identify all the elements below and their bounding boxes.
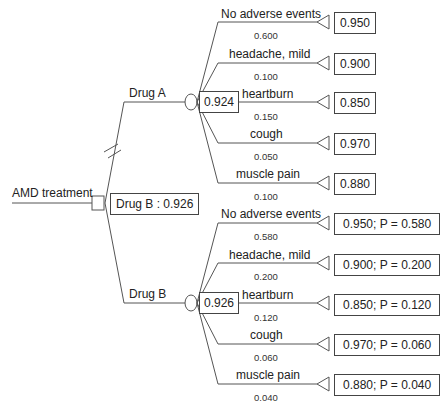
outcome-label: No adverse events [221,7,321,21]
outcome-prob: 0.060 [254,352,278,363]
outcome-prob: 0.600 [254,30,278,41]
outcome-value: 0.970 [334,133,376,155]
branch-label-drug-b: Drug B [129,287,166,301]
terminal-node-icon [317,95,329,109]
chance-node-a-icon [185,94,197,110]
decision-result-box: Drug B : 0.926 [110,193,199,215]
terminal-node-icon [317,337,329,351]
outcome-label: heartburn [242,87,293,101]
outcome-value: 0.950; P = 0.580 [334,213,440,235]
outcome-label: cough [250,328,283,342]
terminal-node-icon [317,136,329,150]
outcome-prob: 0.100 [254,71,278,82]
expected-value-drug-b: 0.926 [199,292,239,314]
outcome-label: headache, mild [229,47,310,61]
outcome-prob: 0.120 [254,312,278,323]
outcome-label: No adverse events [221,207,321,221]
outcome-prob: 0.050 [254,151,278,162]
outcome-value: 0.900 [334,53,376,75]
expected-value-drug-a: 0.924 [199,91,239,113]
outcome-value: 0.950 [334,12,376,34]
outcome-label: muscle pain [236,167,300,181]
terminal-node-icon [317,56,329,70]
outcome-label: cough [250,127,283,141]
terminal-node-icon [317,296,329,310]
outcome-value: 0.850 [334,92,376,114]
outcome-value: 0.880; P = 0.040 [334,374,440,396]
outcome-prob: 0.580 [254,231,278,242]
terminal-node-icon [317,256,329,270]
outcome-prob: 0.200 [254,271,278,282]
branch-label-drug-a: Drug A [129,86,166,100]
outcome-value: 0.880 [334,173,376,195]
outcome-label: heartburn [242,288,293,302]
outcome-prob: 0.100 [254,191,278,202]
outcome-value: 0.900; P = 0.200 [334,254,440,276]
root-label: AMD treatment [12,186,93,200]
terminal-node-icon [317,176,329,190]
outcome-value: 0.970; P = 0.060 [334,334,440,356]
outcome-label: headache, mild [229,248,310,262]
outcome-prob: 0.040 [254,392,278,403]
outcome-value: 0.850; P = 0.120 [334,294,440,316]
decision-node-icon [92,196,104,210]
terminal-node-icon [317,377,329,391]
chance-node-b-icon [185,295,197,311]
outcome-prob: 0.150 [254,111,278,122]
outcome-label: muscle pain [236,368,300,382]
